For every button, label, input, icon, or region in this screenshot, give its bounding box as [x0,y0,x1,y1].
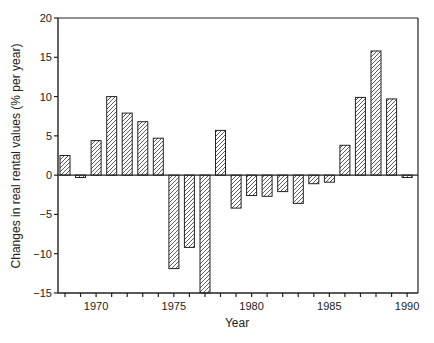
x-tick-label: 1970 [84,300,108,312]
bar-1972 [122,113,132,175]
x-tick-label: 1975 [162,300,186,312]
bar-1989 [387,99,397,175]
bar-1985 [324,175,334,182]
y-tick-label: −15 [33,287,52,299]
y-tick-label: 5 [46,130,52,142]
y-tick-label: 15 [40,51,52,63]
bar-1975 [169,175,179,269]
bar-1984 [309,175,319,184]
bar-1981 [262,175,272,196]
x-tick-label: 1980 [239,300,263,312]
bar-1970 [91,141,101,176]
bar-1973 [138,122,148,175]
bar-1968 [60,156,70,176]
bar-1982 [278,175,288,192]
rental-value-changes-chart: −15−10−505101520 19701975198019851990 Ye… [0,0,434,343]
x-axis-title: Year [225,316,249,330]
bar-1980 [247,175,257,195]
bar-1978 [216,130,226,175]
bar-1974 [153,138,163,175]
bar-1983 [293,175,303,203]
y-tick-label: 20 [40,12,52,24]
bar-1986 [340,145,350,175]
bar-1976 [184,175,194,247]
y-axis: −15−10−505101520 [33,12,58,299]
bar-1988 [371,51,381,175]
x-tick-label: 1990 [395,300,419,312]
x-tick-label: 1985 [317,300,341,312]
y-tick-label: 10 [40,91,52,103]
y-tick-label: −10 [33,248,52,260]
bar-1979 [231,175,241,208]
y-tick-label: −5 [39,208,52,220]
bar-1977 [200,175,210,293]
bar-series [60,51,412,293]
bar-1987 [355,97,365,175]
y-axis-title: Changes in real rental values (% per yea… [9,44,23,269]
x-axis: 19701975198019851990 [65,293,419,312]
bar-1971 [107,97,117,176]
y-tick-label: 0 [46,169,52,181]
